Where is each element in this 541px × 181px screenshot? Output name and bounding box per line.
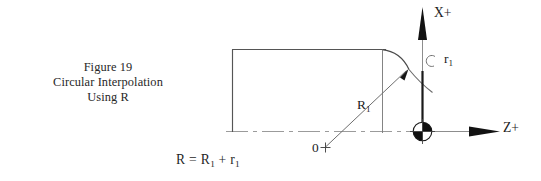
figure-caption: Figure 19 Circular Interpolation Using R [10,60,206,106]
datum-symbol [410,119,435,144]
figure-page: Figure 19 Circular Interpolation Using R… [0,0,541,181]
formula-equals: = [189,152,197,167]
x-axis-arrowhead [418,7,427,40]
z-axis-label: Z+ [503,120,519,136]
caption-line-subject: Circular Interpolation [10,75,206,90]
blend-arc-extension [409,70,433,93]
formula-term-1-subscript: 1 [210,159,215,169]
minor-radius-label: r1 [444,51,453,68]
minor-radius-subscript: 1 [448,58,453,68]
formula-expression: R = R1 + r1 [176,152,240,169]
formula-left-term: R [176,152,185,167]
major-radius-label: R1 [357,97,371,114]
caption-line-method: Using R [10,90,206,105]
caption-line-title: Figure 19 [10,60,206,75]
r1-arc-marker [426,55,435,66]
formula-term-2-subscript: 1 [235,159,240,169]
formula-term-2: r1 [230,152,239,167]
blend-arc [382,50,409,70]
formula-term-1: R1 [201,152,215,167]
major-radius-subscript: 1 [366,104,371,114]
arc-center-label: 0 [312,140,319,156]
z-axis-arrowhead [469,127,500,137]
formula-plus: + [218,152,226,167]
x-axis-label: X+ [434,5,451,21]
